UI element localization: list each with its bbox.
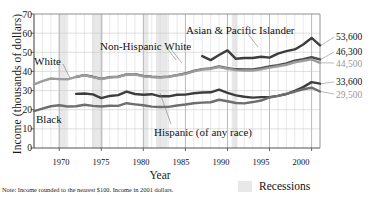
y-tick-30: 30 [10, 86, 32, 96]
y-tick-70: 70 [10, 10, 32, 20]
x-tick-1970: 1970 [41, 157, 81, 167]
x-tick-1985: 1985 [161, 157, 201, 167]
x-tick-1995: 1995 [241, 157, 281, 167]
recessions-legend-label: Recessions [259, 180, 310, 192]
y-tick-10: 10 [10, 124, 32, 134]
y-tick-50: 50 [10, 48, 32, 58]
series-label-black: Black [36, 113, 62, 125]
series-label-non-hispanic-white: Non-Hispanic White [100, 40, 191, 52]
x-tick-1975: 1975 [81, 157, 121, 167]
income-by-race-line-chart: Income (thousands of dollars) 70 60 50 4… [0, 0, 378, 198]
x-tick-2000: 2000 [281, 157, 321, 167]
chart-footnote: Note: Income rounded to the nearest $100… [2, 186, 173, 193]
chart-page: Income (thousands of dollars) 70 60 50 4… [0, 0, 378, 198]
x-tick-1980: 1980 [121, 157, 161, 167]
recession-swatch-icon [238, 181, 252, 192]
y-tick-0: 0 [10, 143, 32, 153]
series-label-asian-pacific: Asian & Pacific Islander [186, 24, 294, 36]
x-tick-1990: 1990 [201, 157, 241, 167]
series-label-white: White [34, 55, 61, 67]
y-tick-20: 20 [10, 105, 32, 115]
end-value-black: 29,500 [336, 90, 378, 100]
y-tick-60: 60 [10, 29, 32, 39]
y-tick-40: 40 [10, 67, 32, 77]
series-label-hispanic: Hispanic (of any race) [154, 126, 252, 138]
end-value-asian: 53,600 [336, 32, 378, 42]
recessions-legend: Recessions [238, 180, 310, 192]
end-value-hispanic: 33,600 [336, 77, 378, 87]
end-value-white: 44,500 [336, 59, 378, 69]
end-value-nhwhite: 46,300 [336, 47, 378, 57]
